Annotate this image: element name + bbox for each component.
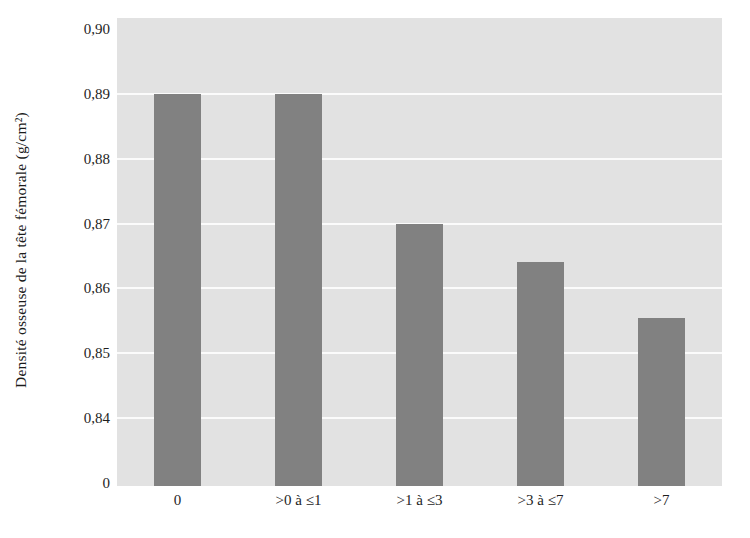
y-axis-tick-label: 0,85: [52, 345, 110, 362]
x-axis-tick-labels: 0>0 à ≤1>1 à ≤3>3 à ≤7>7: [117, 492, 722, 522]
gridline: [117, 158, 722, 160]
y-axis-tick-label: 0,90: [52, 21, 110, 38]
x-axis-tick-label: 0: [174, 492, 182, 509]
y-axis-title-text: Densité osseuse de la tête fémorale (g/c…: [12, 112, 30, 388]
bar: [275, 94, 322, 486]
gridline: [117, 93, 722, 95]
bar: [154, 94, 201, 486]
y-axis-tick-label: 0,86: [52, 280, 110, 297]
bar-chart: Densité osseuse de la tête fémorale (g/c…: [0, 0, 750, 538]
y-axis-tick-label: 0,88: [52, 150, 110, 167]
y-axis-tick-label: 0: [52, 475, 110, 492]
plot-area: [117, 18, 722, 486]
y-axis-tick-label: 0,87: [52, 215, 110, 232]
x-axis-tick-label: >7: [654, 492, 670, 509]
x-axis-tick-label: >0 à ≤1: [276, 492, 322, 509]
x-axis-tick-label: >3 à ≤7: [518, 492, 564, 509]
bar: [517, 262, 564, 486]
y-axis-tick-label: 0,89: [52, 85, 110, 102]
bar: [396, 224, 443, 487]
y-axis-title: Densité osseuse de la tête fémorale (g/c…: [0, 0, 42, 500]
y-axis-tick-label: 0,84: [52, 410, 110, 427]
bar: [638, 318, 685, 486]
y-axis-tick-labels: 00,840,850,860,870,880,890,90: [48, 0, 110, 538]
x-axis-tick-label: >1 à ≤3: [397, 492, 443, 509]
